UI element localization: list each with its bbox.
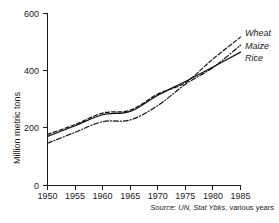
x-tick-label-1955: 1955 (65, 191, 85, 201)
x-tick-label-1985: 1985 (230, 191, 250, 201)
source-title: Stat Ybks (191, 203, 225, 212)
y-tick-label-400: 400 (24, 66, 39, 76)
x-tick-label-1970: 1970 (148, 191, 168, 201)
series-label-wheat: Wheat (245, 28, 272, 38)
y-tick-label-0: 0 (34, 181, 39, 191)
x-tick-label-1965: 1965 (120, 191, 140, 201)
series-label-rice: Rice (245, 53, 263, 63)
y-axis-title: Million metric tons (12, 91, 22, 164)
source-suffix: , various years (225, 203, 274, 212)
chart-figure: 600 400 200 0 1950 1955 1960 1965 1970 1… (0, 0, 279, 223)
chart-svg: 600 400 200 0 1950 1955 1960 1965 1970 1… (0, 0, 279, 223)
x-tick-label-1950: 1950 (37, 191, 57, 201)
y-tick-label-600: 600 (24, 9, 39, 19)
series-line-wheat (48, 37, 241, 134)
series-label-maize: Maize (245, 41, 269, 51)
source-publisher: UN, (176, 203, 191, 212)
y-tick-label-200: 200 (24, 123, 39, 133)
x-tick-label-1980: 1980 (203, 191, 223, 201)
x-tick-label-1975: 1975 (175, 191, 195, 201)
source-note: Source: UN, Stat Ybks, various years (150, 203, 274, 212)
x-tick-label-1960: 1960 (93, 191, 113, 201)
source-prefix: Source: (150, 203, 176, 212)
